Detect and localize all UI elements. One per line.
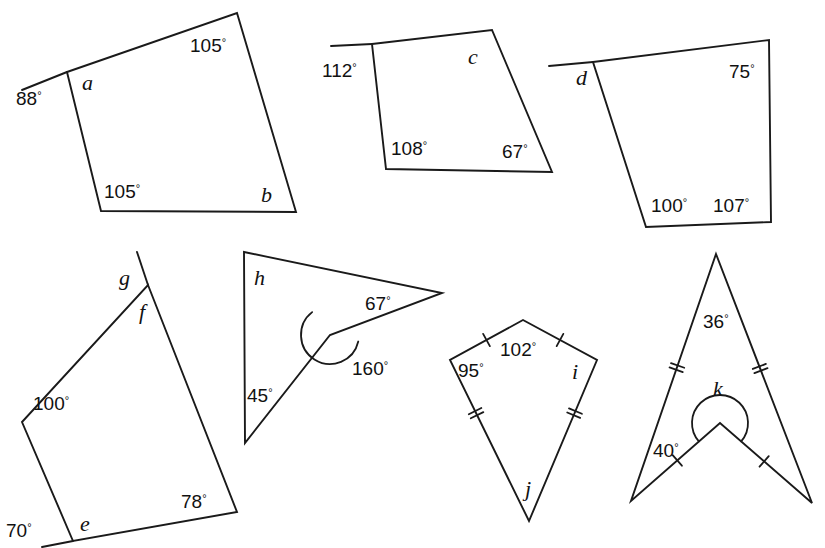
quadrilateral-a-b-angle-b: b [261, 182, 272, 207]
degree-symbol: ° [745, 196, 749, 208]
quadrilateral-e-f-g-angle-g: g [119, 265, 130, 290]
degree-symbol: ° [532, 340, 536, 352]
label-text: 112 [322, 60, 352, 81]
degree-symbol: ° [683, 196, 687, 208]
degree-symbol: ° [222, 36, 226, 48]
quadrilateral-c-angle-112: 112° [322, 60, 357, 81]
label-text: f [139, 299, 148, 324]
kite-i-j-angle-j: j [522, 476, 531, 501]
kite-i-j: 102°95°ij [450, 320, 597, 521]
quadrilateral-e-f-g-angle-e: e [80, 511, 90, 536]
quadrilateral-a-b-angle-88: 88° [16, 88, 42, 109]
degree-symbol: ° [750, 62, 754, 74]
quadrilateral-a-b-angle-a: a [82, 70, 93, 95]
label-text: k [713, 376, 724, 401]
label-text: 70 [6, 520, 27, 541]
reflex-arc-160 [301, 312, 358, 364]
label-text: g [119, 265, 130, 290]
kite-i-j-angle-102: 102° [500, 339, 536, 360]
quadrilateral-c: 112°c108°67° [322, 30, 552, 172]
quadrilateral-d-angle-100: 100° [651, 195, 687, 216]
degree-symbol: ° [423, 139, 427, 151]
label-text: 102 [500, 339, 532, 360]
label-text: 75 [729, 61, 750, 82]
degree-symbol: ° [65, 394, 69, 406]
quadrilateral-e-f-g-angle-78: 78° [181, 491, 207, 512]
degree-symbol: ° [202, 492, 206, 504]
label-text: 36 [703, 311, 724, 332]
quadrilateral-c-angle-67: 67° [502, 141, 528, 162]
quadrilateral-e-f-g-angle-70: 70° [6, 520, 32, 541]
worksheet-page: 88°a105°105°b112°c108°67°d75°100°107°gf1… [0, 0, 825, 548]
dart-k-angle-k: k [713, 376, 724, 401]
quadrilateral-e-f-g: gf100°70°e78° [6, 252, 237, 547]
quadrilateral-c-ray-tail-1 [331, 44, 372, 46]
quadrilateral-e-f-g-ray-tail-2 [42, 541, 73, 547]
label-text: 40 [653, 440, 674, 461]
label-text: 95 [458, 360, 479, 381]
label-text: 45 [247, 385, 268, 406]
concave-quadrilateral-h-angle-h: h [254, 265, 265, 290]
degree-symbol: ° [268, 386, 272, 398]
reflex-arc-k [692, 395, 748, 441]
quadrilateral-a-b: 88°a105°105°b [16, 13, 296, 212]
label-text: 67 [365, 293, 386, 314]
dart-k-angle-36: 36° [703, 311, 729, 332]
concave-quadrilateral-h-angle-45: 45° [247, 385, 273, 406]
label-text: 107 [713, 195, 745, 216]
label-text: 160 [352, 358, 384, 379]
tick-single-upper-right [557, 334, 564, 346]
label-text: c [468, 44, 478, 69]
degree-symbol: ° [27, 521, 31, 533]
tick-single-upper-left [483, 334, 490, 346]
degree-symbol: ° [479, 361, 483, 373]
label-text: j [522, 476, 531, 501]
kite-i-j-angle-95: 95° [458, 360, 484, 381]
label-text: 105 [104, 181, 136, 202]
label-text: 78 [181, 491, 202, 512]
degree-symbol: ° [37, 89, 41, 101]
quadrilateral-a-b-angle-105-bottom: 105° [104, 181, 140, 202]
quadrilateral-e-f-g-angle-f: f [139, 299, 148, 324]
quadrilateral-d: d75°100°107° [549, 40, 771, 227]
dart-k: 36°k40° [631, 254, 812, 503]
kite-i-j-angle-i: i [572, 359, 578, 384]
concave-quadrilateral-h-outline [244, 252, 442, 443]
label-text: 100 [651, 195, 683, 216]
label-text: 108 [391, 138, 423, 159]
figures-canvas: 88°a105°105°b112°c108°67°d75°100°107°gf1… [0, 0, 825, 548]
quadrilateral-c-angle-108: 108° [391, 138, 427, 159]
label-text: h [254, 265, 265, 290]
concave-quadrilateral-h-angle-67: 67° [365, 293, 391, 314]
quadrilateral-d-angle-d: d [576, 65, 588, 90]
quadrilateral-a-b-angle-105-top: 105° [190, 35, 226, 56]
degree-symbol: ° [386, 294, 390, 306]
label-text: b [261, 182, 272, 207]
label-text: i [572, 359, 578, 384]
degree-symbol: ° [352, 61, 356, 73]
quadrilateral-d-angle-75: 75° [729, 61, 755, 82]
concave-quadrilateral-h: h67°160°45° [244, 252, 442, 443]
label-text: d [576, 65, 588, 90]
label-text: 88 [16, 88, 37, 109]
degree-symbol: ° [724, 312, 728, 324]
label-text: e [80, 511, 90, 536]
label-text: a [82, 70, 93, 95]
concave-quadrilateral-h-angle-160: 160° [352, 358, 388, 379]
label-text: 100 [33, 393, 65, 414]
quadrilateral-e-f-g-ray-tail-1 [137, 252, 148, 285]
degree-symbol: ° [523, 142, 527, 154]
degree-symbol: ° [384, 359, 388, 371]
degree-symbol: ° [136, 182, 140, 194]
quadrilateral-d-angle-107: 107° [713, 195, 749, 216]
quadrilateral-e-f-g-angle-100: 100° [33, 393, 69, 414]
quadrilateral-c-angle-c: c [468, 44, 478, 69]
label-text: 67 [502, 141, 523, 162]
degree-symbol: ° [674, 441, 678, 453]
label-text: 105 [190, 35, 222, 56]
